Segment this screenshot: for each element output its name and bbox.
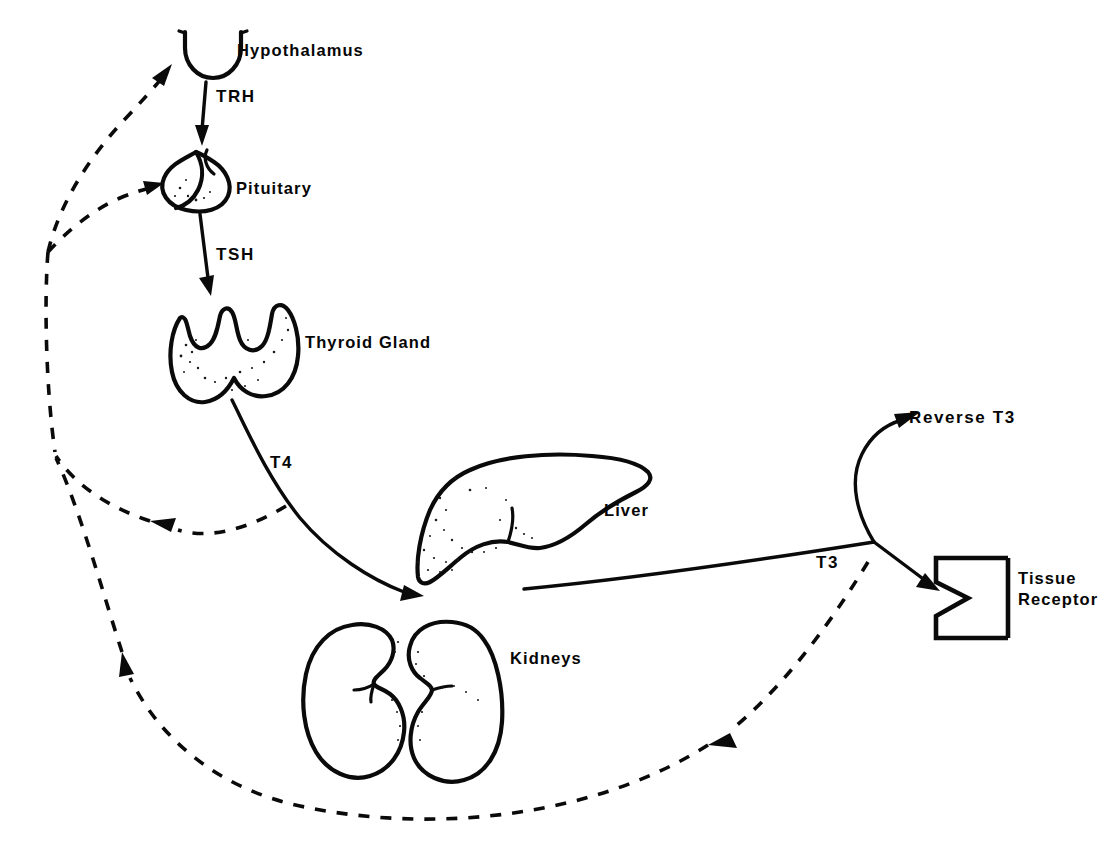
label-t4: T4 <box>270 452 293 473</box>
label-kidneys: Kidneys <box>510 648 582 669</box>
t4-feedback-dashed <box>56 456 286 534</box>
label-trh: TRH <box>216 86 256 107</box>
kidneys-shape <box>303 622 502 782</box>
thyroid-axis-diagram: Hypothalamus TRH Pituitary TSH Thyroid G… <box>0 0 1111 860</box>
label-liver: Liver <box>604 500 649 521</box>
t3-feedback-dashed <box>56 458 868 819</box>
label-thyroid-gland: Thyroid Gland <box>305 332 431 353</box>
feedback-arrow-hypothalamus <box>48 64 172 252</box>
label-tsh: TSH <box>216 244 255 265</box>
label-pituitary: Pituitary <box>236 178 312 199</box>
feedback-trunk <box>46 252 55 452</box>
label-hypothalamus: Hypothalamus <box>237 40 364 61</box>
feedback-arrow-pituitary <box>48 181 164 252</box>
label-t3: T3 <box>816 552 839 573</box>
pituitary-shape <box>162 150 229 211</box>
t4-arrow <box>232 400 424 601</box>
label-tissue-receptor: Tissue Receptor <box>1018 568 1098 610</box>
label-reverse-t3: Reverse T3 <box>909 407 1016 428</box>
reverse-t3-arrow <box>855 412 920 542</box>
tissue-receptor-shape <box>936 558 1008 638</box>
diagram-canvas <box>0 0 1111 860</box>
liver-stipple <box>417 477 533 573</box>
trh-arrow <box>195 82 209 146</box>
tsh-arrow <box>199 214 214 296</box>
t3-arrow <box>874 542 940 591</box>
thyroid-gland-shape <box>170 305 298 402</box>
